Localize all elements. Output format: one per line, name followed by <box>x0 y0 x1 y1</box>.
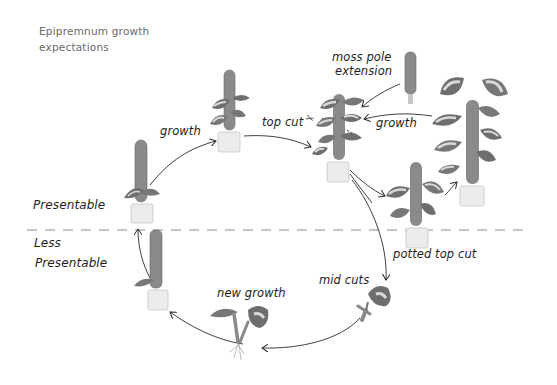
plant-new-growth <box>208 302 272 366</box>
zone-less-line-2: Presentable <box>35 256 107 270</box>
plant-full-top-cut <box>310 88 368 184</box>
label-growth-1: growth <box>160 124 201 138</box>
growth-diagram: Epipremnum growth expectations <box>0 0 557 385</box>
label-mid-cuts: mid cuts <box>319 273 369 287</box>
plant-small-on-pole <box>118 138 168 228</box>
moss-pole-extension <box>400 50 420 106</box>
arrow-to-new-growth <box>262 318 360 348</box>
label-moss-pole-line-2: extension <box>335 64 392 78</box>
plant-mid-cuts <box>352 282 396 328</box>
plant-medium-on-pole <box>204 68 254 156</box>
label-growth-2: growth <box>376 116 417 130</box>
arrow-to-top-cut <box>244 136 311 147</box>
label-new-growth: new growth <box>217 286 286 300</box>
zone-less-line-1: Less <box>34 236 61 250</box>
zone-presentable: Presentable <box>33 198 105 212</box>
label-potted-top-cut: potted top cut <box>393 247 476 261</box>
plant-potted-top-cut <box>384 160 446 250</box>
label-top-cut: top cut <box>262 115 303 129</box>
plant-bare-pole <box>132 228 172 312</box>
label-moss-pole-line-1: moss pole <box>332 50 391 64</box>
